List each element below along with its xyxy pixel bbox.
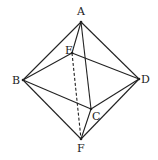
vertex-D <box>138 78 141 81</box>
edge-BE <box>23 53 72 80</box>
diagram: ABCDEF <box>0 0 158 160</box>
edge-EF <box>72 53 81 139</box>
label-B: B <box>12 74 20 87</box>
edge-ED <box>72 53 139 79</box>
label-A: A <box>76 5 86 18</box>
label-D: D <box>141 73 150 86</box>
edge-BC <box>23 80 91 109</box>
vertex-A <box>80 21 83 24</box>
label-C: C <box>92 110 100 123</box>
vertex-B <box>22 79 25 82</box>
label-E: E <box>65 44 73 57</box>
edge-BF <box>23 80 81 139</box>
vertex-F <box>80 138 83 141</box>
edge-AC <box>81 22 91 109</box>
label-F: F <box>77 142 85 155</box>
octahedron-figure: ABCDEF <box>0 0 158 160</box>
edge-AD <box>81 22 139 79</box>
